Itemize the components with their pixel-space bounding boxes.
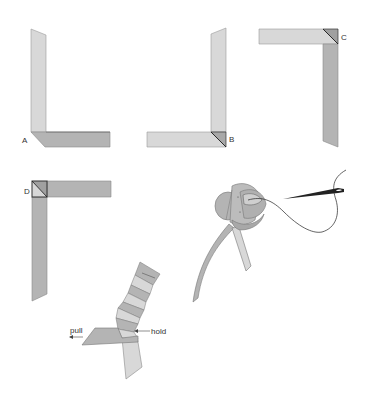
rose-head	[215, 184, 266, 230]
step-d-horizontal-strip	[47, 181, 111, 197]
step-d-figure: D	[24, 181, 111, 301]
step-c-vertical-strip	[323, 44, 338, 147]
step-a-figure: A	[22, 29, 110, 147]
step-b-figure: B	[147, 28, 234, 147]
rose-stem-ribbon	[193, 224, 234, 302]
step-c-label: C	[341, 33, 347, 42]
diagram-canvas: A B C D	[0, 0, 367, 395]
step-b-vertical-strip	[211, 28, 226, 132]
rolling-step-figure: pull hold	[69, 262, 166, 379]
step-a-horizontal-strip	[31, 132, 110, 147]
ribbon-rose-diagram: A B C D	[0, 0, 367, 395]
step-c-figure: C	[259, 29, 347, 147]
pull-label: pull	[70, 326, 83, 335]
finishing-step-figure	[193, 170, 346, 302]
step-b-label: B	[229, 135, 234, 144]
hold-label: hold	[151, 327, 166, 336]
step-a-vertical-strip	[31, 29, 46, 132]
step-d-vertical-strip	[32, 197, 47, 301]
rose-tail-ribbon	[232, 227, 251, 271]
step-d-label: D	[24, 187, 30, 196]
step-a-label: A	[22, 136, 28, 145]
